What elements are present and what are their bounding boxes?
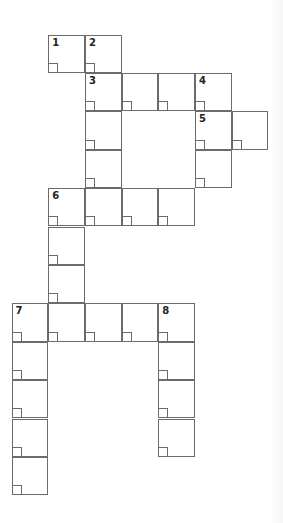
crossword-cell[interactable]	[232, 111, 269, 149]
crossword-cell[interactable]	[158, 342, 195, 380]
corner-marker-icon	[85, 101, 95, 111]
crossword-cell[interactable]	[122, 303, 159, 341]
crossword-cell[interactable]	[12, 342, 49, 380]
corner-marker-icon	[85, 63, 95, 73]
corner-marker-icon	[85, 178, 95, 188]
corner-marker-icon	[232, 140, 242, 150]
crossword-cell[interactable]: 1	[48, 35, 85, 73]
corner-marker-icon	[85, 140, 95, 150]
clue-number: 2	[89, 37, 96, 48]
crossword-cell[interactable]	[85, 303, 122, 341]
corner-marker-icon	[48, 255, 58, 265]
crossword-cell[interactable]	[158, 188, 195, 226]
crossword-cell[interactable]: 8	[158, 303, 195, 341]
corner-marker-icon	[195, 140, 205, 150]
corner-marker-icon	[48, 216, 58, 226]
crossword-cell[interactable]: 7	[12, 303, 49, 341]
crossword-cell[interactable]	[195, 150, 232, 188]
crossword-cell[interactable]	[122, 73, 159, 111]
corner-marker-icon	[48, 293, 58, 303]
corner-marker-icon	[12, 408, 22, 418]
corner-marker-icon	[12, 485, 22, 495]
corner-marker-icon	[158, 216, 168, 226]
corner-marker-icon	[85, 216, 95, 226]
crossword-cell[interactable]	[48, 227, 85, 265]
crossword-cell[interactable]: 4	[195, 73, 232, 111]
corner-marker-icon	[85, 332, 95, 342]
clue-number: 5	[199, 113, 206, 124]
crossword-cell[interactable]	[122, 188, 159, 226]
clue-number: 4	[199, 75, 206, 86]
corner-marker-icon	[158, 370, 168, 380]
corner-marker-icon	[12, 447, 22, 457]
crossword-cell[interactable]	[158, 73, 195, 111]
clue-number: 8	[162, 305, 169, 316]
crossword-cell[interactable]	[85, 111, 122, 149]
corner-marker-icon	[158, 447, 168, 457]
corner-marker-icon	[48, 63, 58, 73]
crossword-cell[interactable]	[85, 188, 122, 226]
clue-number: 1	[52, 37, 59, 48]
crossword-cell[interactable]	[158, 419, 195, 457]
corner-marker-icon	[12, 370, 22, 380]
corner-marker-icon	[158, 408, 168, 418]
crossword-cell[interactable]: 5	[195, 111, 232, 149]
corner-marker-icon	[48, 332, 58, 342]
crossword-cell[interactable]	[85, 150, 122, 188]
crossword-cell[interactable]	[12, 419, 49, 457]
crossword-grid: 12345678	[0, 0, 283, 523]
corner-marker-icon	[122, 332, 132, 342]
clue-number: 7	[16, 305, 23, 316]
crossword-cell[interactable]	[48, 303, 85, 341]
corner-marker-icon	[158, 101, 168, 111]
corner-marker-icon	[12, 332, 22, 342]
crossword-cell[interactable]	[12, 380, 49, 418]
crossword-cell[interactable]	[48, 265, 85, 303]
corner-marker-icon	[195, 178, 205, 188]
corner-marker-icon	[122, 216, 132, 226]
crossword-cell[interactable]: 2	[85, 35, 122, 73]
clue-number: 6	[52, 190, 59, 201]
corner-marker-icon	[122, 101, 132, 111]
clue-number: 3	[89, 75, 96, 86]
crossword-cell[interactable]: 6	[48, 188, 85, 226]
corner-marker-icon	[195, 101, 205, 111]
crossword-cell[interactable]	[158, 380, 195, 418]
corner-marker-icon	[158, 332, 168, 342]
crossword-cell[interactable]: 3	[85, 73, 122, 111]
crossword-cell[interactable]	[12, 457, 49, 495]
